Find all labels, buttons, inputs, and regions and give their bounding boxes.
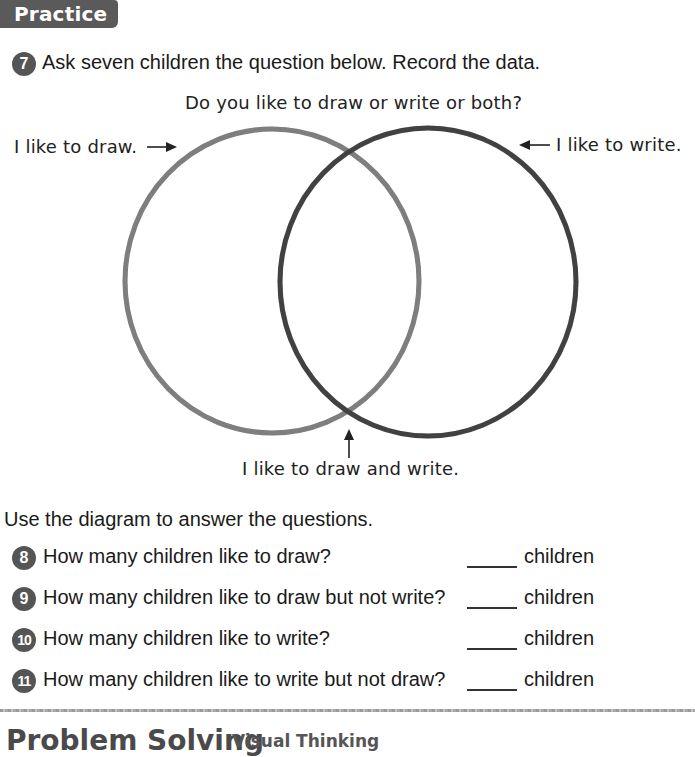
question-text: How many children like to write but not … (43, 668, 445, 691)
answer-blank[interactable] (467, 607, 517, 609)
answer-unit: children (524, 545, 594, 568)
answer-blank[interactable] (467, 689, 517, 691)
label-draw-and-write: I like to draw and write. (242, 458, 459, 479)
answer-unit: children (524, 627, 594, 650)
question-number-badge: 8 (12, 546, 36, 570)
section-divider (0, 709, 695, 712)
answer-unit: children (524, 668, 594, 691)
question-number-badge: 11 (12, 669, 36, 693)
question-text: How many children like to draw? (43, 545, 331, 568)
left-arrow-icon (519, 140, 550, 150)
label-write: I like to write. (556, 134, 682, 155)
write-circle (280, 128, 576, 436)
answer-unit: children (524, 586, 594, 609)
question-text: How many children like to draw but not w… (43, 586, 445, 609)
answer-blank[interactable] (467, 648, 517, 650)
answer-blank[interactable] (467, 566, 517, 568)
label-draw: I like to draw. (14, 136, 137, 157)
up-arrow-icon (344, 429, 354, 458)
question-text: How many children like to write? (43, 627, 330, 650)
question-number-badge: 9 (12, 587, 36, 611)
right-arrow-icon (147, 142, 177, 152)
problem-solving-subtitle: Visual Thinking (232, 731, 379, 751)
draw-circle (125, 129, 419, 433)
question-number-badge: 10 (12, 628, 36, 652)
problem-solving-title: Problem Solving (6, 724, 264, 757)
use-diagram-instruction: Use the diagram to answer the questions. (4, 508, 373, 531)
